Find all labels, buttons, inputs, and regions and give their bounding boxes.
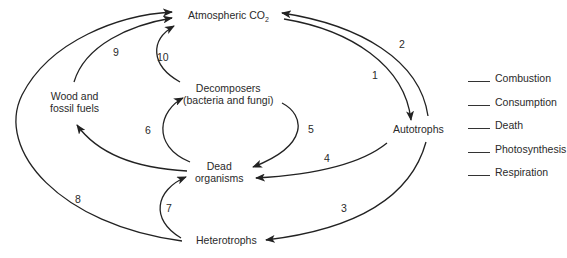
dead-line1: Dead: [195, 160, 243, 172]
legend-item-respiration: Respiration: [468, 155, 566, 179]
arrow-1: [284, 19, 411, 120]
node-autotrophs: Autotrophs: [393, 123, 444, 135]
arrow-7: [160, 177, 186, 238]
autotrophs-label: Autotrophs: [393, 123, 444, 135]
arrow-number-8: 8: [75, 193, 81, 205]
answer-blank[interactable]: [468, 152, 490, 153]
answer-blank[interactable]: [468, 105, 490, 106]
legend-label: Photosynthesis: [495, 143, 566, 155]
answer-blank[interactable]: [468, 81, 490, 82]
legend-item-death: Death: [468, 108, 566, 132]
arrow-number-1: 1: [372, 69, 378, 81]
legend-label: Consumption: [495, 96, 557, 108]
heterotrophs-label: Heterotrophs: [196, 234, 257, 246]
legend-label: Respiration: [495, 166, 548, 178]
decomposers-line2: (bacteria and fungi): [183, 94, 273, 106]
decomposers-line1: Decomposers: [183, 82, 273, 94]
arrow-number-6: 6: [145, 124, 151, 136]
arrow-number-3: 3: [341, 202, 347, 214]
node-decomposers: Decomposers (bacteria and fungi): [183, 82, 273, 106]
arrow-number-2: 2: [399, 38, 405, 50]
node-atmospheric-co2: Atmospheric CO2: [188, 9, 269, 26]
node-heterotrophs: Heterotrophs: [196, 234, 257, 246]
arrow-3: [266, 142, 426, 240]
legend-item-consumption: Consumption: [468, 84, 566, 108]
node-wood-fossil-fuels: Wood and fossil fuels: [50, 90, 99, 114]
answer-blank[interactable]: [468, 128, 490, 129]
arrow-4: [256, 143, 387, 178]
arrow-number-4: 4: [324, 152, 330, 164]
arrow-number-9: 9: [113, 46, 119, 58]
node-dead-organisms: Dead organisms: [195, 160, 243, 184]
wood-line2: fossil fuels: [50, 102, 99, 114]
wood-line1: Wood and: [50, 90, 99, 102]
arrow-number-5: 5: [308, 123, 314, 135]
legend-label: Combustion: [495, 72, 551, 84]
arrow-number-7: 7: [166, 202, 172, 214]
answer-blank[interactable]: [468, 175, 490, 176]
legend-label: Death: [495, 119, 523, 131]
co2-subscript: 2: [265, 16, 269, 23]
co2-label: Atmospheric CO: [188, 9, 265, 21]
arrow-5: [253, 103, 298, 167]
dead-line2: organisms: [195, 172, 243, 184]
carbon-cycle-diagram: Atmospheric CO2 Decomposers (bacteria an…: [0, 0, 567, 258]
legend: Combustion Consumption Death Photosynthe…: [468, 72, 566, 178]
legend-item-photosynthesis: Photosynthesis: [468, 131, 566, 155]
arrow-6: [163, 98, 190, 162]
legend-item-combustion: Combustion: [468, 72, 566, 84]
arrow-number-10: 10: [157, 51, 169, 63]
